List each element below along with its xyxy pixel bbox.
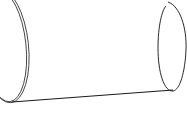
cylinder-icon (0, 0, 187, 132)
left-end-ellipse (0, 0, 34, 105)
cylinder-drawing (0, 0, 187, 132)
right-end-ellipse (158, 2, 186, 91)
bottom-edge (12, 90, 173, 102)
